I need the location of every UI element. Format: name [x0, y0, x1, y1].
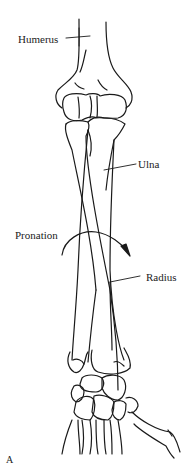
- radius-bone: [72, 130, 124, 362]
- ulna-label: Ulna: [138, 159, 159, 170]
- ulna-bone: [65, 117, 125, 390]
- carpal-bones: [71, 375, 138, 420]
- pronation-arrow: [62, 232, 130, 256]
- radius-leader-line: [110, 276, 140, 282]
- humerus-leader-line: [66, 36, 90, 38]
- radius-label: Radius: [146, 272, 177, 283]
- panel-label: A: [6, 455, 13, 465]
- humerus-label: Humerus: [18, 34, 58, 45]
- humerus-bone: [56, 19, 132, 121]
- pronation-label: Pronation: [15, 230, 58, 241]
